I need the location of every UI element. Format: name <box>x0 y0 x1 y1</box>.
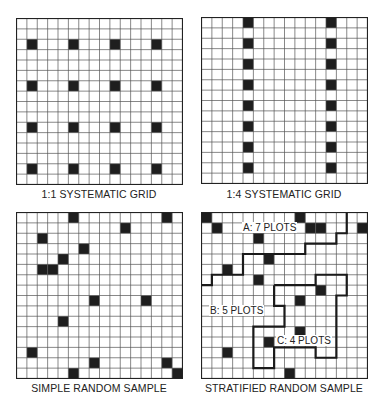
sample-plot <box>243 59 253 69</box>
panel-systematic-1-1 <box>16 18 182 184</box>
sample-plot <box>326 18 336 28</box>
sample-plot <box>68 122 78 132</box>
sample-plot <box>48 264 58 274</box>
sample-plot <box>264 254 274 264</box>
stratum-label-c: C: 4 PLOTS <box>276 335 332 346</box>
sample-plot <box>27 122 37 132</box>
sample-plot <box>285 368 295 378</box>
sample-plot <box>27 347 37 357</box>
sample-plot <box>151 81 161 91</box>
caption-stratified-random: STRATIFIED RANDOM SAMPLE <box>184 382 384 394</box>
sample-plot <box>326 142 336 152</box>
sample-plot <box>79 244 89 254</box>
caption-systematic-1-4: 1:4 SYSTEMATIC GRID <box>184 188 384 200</box>
sample-plot <box>326 101 336 111</box>
sample-plot <box>58 254 68 264</box>
sample-plot <box>68 39 78 49</box>
sample-plot <box>253 233 263 243</box>
sample-plot <box>151 39 161 49</box>
grid-systematic-1-4 <box>201 17 368 184</box>
sample-plot <box>202 213 212 223</box>
sample-plot <box>243 18 253 28</box>
sample-plot <box>68 368 78 378</box>
sample-plot <box>89 358 99 368</box>
sample-plot <box>357 223 367 233</box>
sample-plot <box>212 223 222 233</box>
sample-plot <box>27 164 37 174</box>
sample-plot <box>316 285 326 295</box>
sample-plot <box>326 163 336 173</box>
sample-plot <box>110 164 120 174</box>
sample-plot <box>68 81 78 91</box>
sample-plot <box>222 347 232 357</box>
grid-simple-random <box>16 212 183 379</box>
sample-plot <box>27 81 37 91</box>
sample-plot <box>68 164 78 174</box>
sample-plot <box>243 121 253 131</box>
sample-plot <box>162 213 172 223</box>
sample-plot <box>222 264 232 274</box>
sample-plot <box>243 80 253 90</box>
panel-stratified-random: A: 7 PLOTS B: 5 PLOTS C: 4 PLOTS <box>201 212 367 378</box>
sample-plot <box>316 223 326 233</box>
sample-plot <box>326 59 336 69</box>
stratum-label-a: A: 7 PLOTS <box>242 222 297 233</box>
sample-plot <box>151 122 161 132</box>
sample-plot <box>295 296 305 306</box>
sample-plot <box>172 368 182 378</box>
sample-plot <box>264 337 274 347</box>
sample-plot <box>151 164 161 174</box>
grid-systematic-1-1 <box>16 18 183 185</box>
sample-plot <box>162 358 172 368</box>
grid-stratified-random <box>201 212 368 379</box>
sample-plot <box>326 121 336 131</box>
sample-plot <box>37 233 47 243</box>
sample-plot <box>243 101 253 111</box>
sample-plot <box>305 223 315 233</box>
sample-plot <box>243 163 253 173</box>
panel-simple-random <box>16 212 182 378</box>
sample-plot <box>243 142 253 152</box>
sample-plot <box>243 38 253 48</box>
panel-systematic-1-4 <box>201 17 367 183</box>
sample-plot <box>110 81 120 91</box>
sample-plot <box>326 80 336 90</box>
sample-plot <box>110 122 120 132</box>
caption-simple-random: SIMPLE RANDOM SAMPLE <box>0 382 199 394</box>
stratum-label-b: B: 5 PLOTS <box>209 305 264 316</box>
caption-systematic-1-1: 1:1 SYSTEMATIC GRID <box>0 188 199 200</box>
stratum-boundary <box>253 275 346 368</box>
sample-plot <box>37 264 47 274</box>
sample-plot <box>253 275 263 285</box>
sample-plot <box>326 38 336 48</box>
sample-plot <box>68 213 78 223</box>
sample-plot <box>110 39 120 49</box>
sample-plot <box>58 316 68 326</box>
sample-plot <box>141 296 151 306</box>
sample-plot <box>89 296 99 306</box>
sample-plot <box>27 39 37 49</box>
sample-plot <box>120 223 130 233</box>
